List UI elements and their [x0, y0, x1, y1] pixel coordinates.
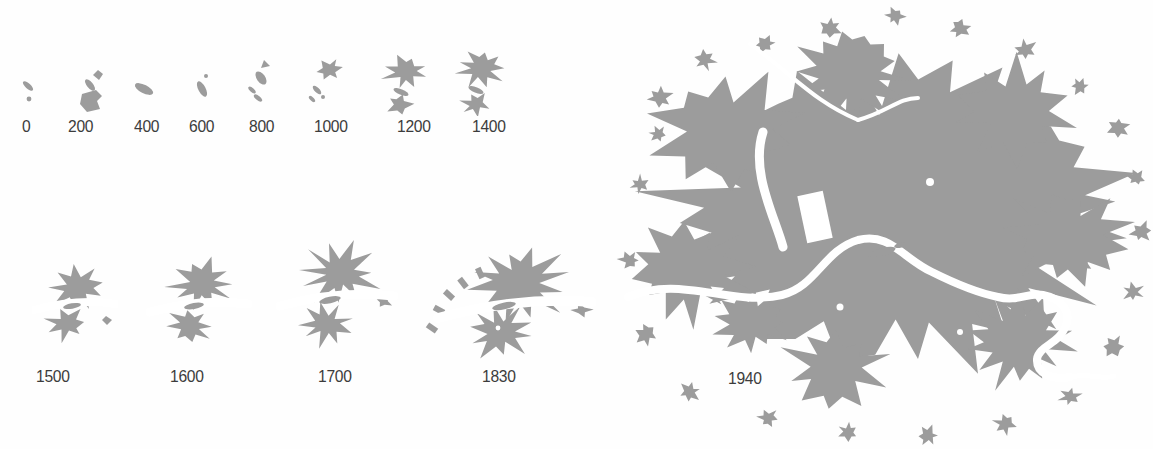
- figure-canvas: 0 200 400 600 800 1000 1200 1400 1500 16…: [0, 0, 1153, 449]
- city-map-1000: [304, 56, 346, 108]
- year-label-1200: 1200: [397, 118, 431, 135]
- city-map-400: [130, 78, 160, 100]
- year-label-1830: 1830: [482, 368, 516, 385]
- city-map-1200: [378, 52, 434, 116]
- city-map-1700: [276, 238, 398, 362]
- year-label-1500: 1500: [36, 368, 70, 385]
- year-label-400: 400: [134, 118, 159, 135]
- year-label-1000: 1000: [314, 118, 348, 135]
- city-map-0: [18, 78, 42, 108]
- year-label-600: 600: [189, 118, 214, 135]
- city-map-1500: [32, 260, 118, 352]
- year-label-1600: 1600: [170, 368, 204, 385]
- city-map-1940: [600, 2, 1153, 447]
- city-map-1400: [450, 46, 512, 116]
- year-label-1400: 1400: [472, 118, 506, 135]
- city-map-800: [246, 58, 278, 108]
- city-map-600: [192, 72, 218, 104]
- year-label-0: 0: [22, 118, 30, 135]
- year-label-1700: 1700: [318, 368, 352, 385]
- year-label-200: 200: [68, 118, 93, 135]
- city-map-200: [76, 66, 110, 116]
- year-label-1940: 1940: [728, 370, 762, 387]
- city-map-1600: [146, 252, 252, 358]
- year-label-800: 800: [249, 118, 274, 135]
- city-map-1830: [424, 240, 596, 364]
